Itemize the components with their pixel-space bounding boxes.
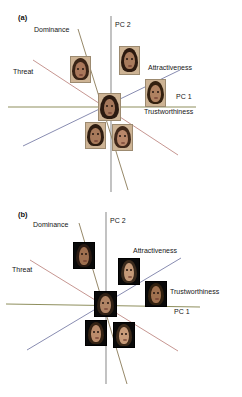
label-pc2-b: PC 2 (110, 217, 126, 225)
label-dominance-a: Dominance (34, 26, 69, 34)
face-thumbnail (145, 281, 167, 307)
face-thumbnail (145, 79, 166, 107)
label-threat-b: Threat (12, 266, 32, 274)
label-attractiveness-a: Attractiveness (148, 64, 192, 72)
panel-b: (b) (0, 198, 242, 396)
label-trustworthiness-b: Trustworthiness (170, 288, 219, 296)
face-thumbnail (119, 46, 140, 75)
face-thumbnail (85, 122, 106, 149)
face-thumbnail (73, 242, 95, 269)
face-thumbnail-origin (98, 93, 121, 121)
label-threat-a: Threat (13, 68, 33, 76)
label-pc1-b: PC 1 (174, 308, 190, 316)
face-thumbnail (85, 320, 107, 346)
face-thumbnail (118, 258, 140, 285)
face-thumbnail (113, 322, 135, 348)
label-dominance-b: Dominance (33, 221, 68, 229)
label-pc2-a: PC 2 (115, 21, 131, 29)
label-trustworthiness-a: Trustworthiness (144, 108, 193, 116)
face-thumbnail (70, 56, 91, 83)
label-attractiveness-b: Attractiveness (133, 247, 177, 255)
label-pc1-a: PC 1 (176, 93, 192, 101)
face-thumbnail (112, 124, 133, 151)
panel-a: (a) (0, 0, 242, 198)
face-thumbnail-origin (94, 291, 117, 317)
